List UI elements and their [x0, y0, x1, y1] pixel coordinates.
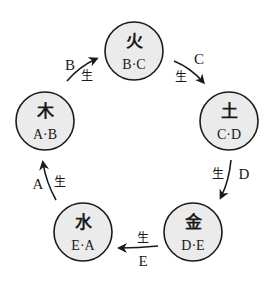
node-label: E·A — [71, 238, 95, 253]
edge-relation: 生 — [175, 70, 187, 84]
node-label: C·D — [217, 127, 241, 142]
edge-relation: 生 — [212, 167, 224, 181]
node-label: A·B — [33, 127, 57, 142]
node-element-char: 水 — [75, 212, 93, 232]
arrow-icon — [120, 246, 158, 248]
edge-relation: 生 — [54, 175, 66, 189]
node-element-char: 木 — [36, 101, 55, 121]
node-label: D·E — [181, 238, 204, 253]
edge-relation: 生 — [137, 231, 149, 245]
five-elements-cycle-diagram: B 生 C 生 D 生 E 生 A 生 火 B·C 土 C·D 金 D·E — [0, 0, 274, 292]
node-earth: 土 C·D — [200, 92, 258, 150]
node-element-char: 金 — [184, 212, 203, 232]
edge-earth-to-metal: D 生 — [212, 160, 250, 197]
node-element-char: 火 — [126, 31, 144, 51]
edge-letter: E — [138, 253, 147, 269]
edge-letter: B — [65, 57, 75, 73]
edge-wood-to-fire: B 生 — [65, 57, 96, 83]
edge-fire-to-earth: C 生 — [174, 51, 204, 84]
edge-letter: A — [33, 176, 44, 192]
edge-letter: C — [194, 51, 204, 67]
node-element-char: 土 — [221, 101, 238, 121]
node-label: B·C — [122, 57, 145, 72]
edge-metal-to-water: E 生 — [120, 231, 158, 269]
edge-letter: D — [239, 166, 250, 182]
node-metal: 金 D·E — [164, 203, 222, 261]
edge-relation: 生 — [81, 69, 93, 83]
node-water: 水 E·A — [54, 203, 112, 261]
edge-water-to-wood: A 生 — [33, 163, 66, 200]
node-wood: 木 A·B — [16, 92, 74, 150]
node-fire: 火 B·C — [105, 22, 163, 80]
